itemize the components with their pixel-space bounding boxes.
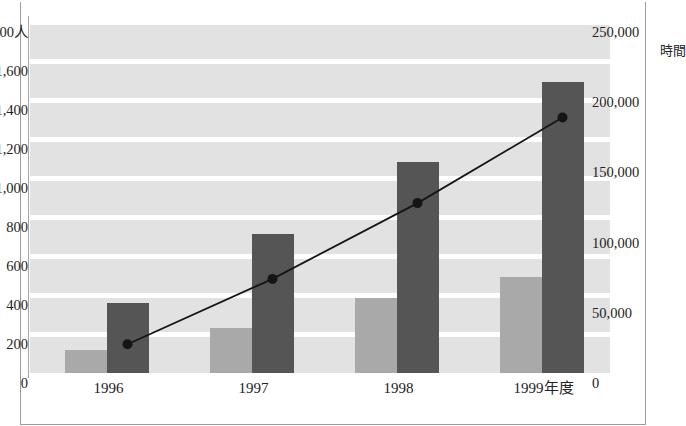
x-label-1998: 1998	[339, 381, 459, 396]
y-tick-left-800: 800	[0, 220, 28, 235]
frame-bottom-rule	[20, 424, 646, 425]
line-series-layer	[30, 22, 610, 373]
y-tick-right-250000: 250,000	[592, 25, 682, 40]
line-series-path	[128, 118, 563, 345]
y-tick-left-1600: 1,600	[0, 64, 28, 79]
line-marker-1999年度	[558, 113, 568, 123]
x-label-1999年度: 1999年度	[484, 381, 604, 396]
y-tick-left-200: 200	[0, 337, 28, 352]
line-marker-1997	[268, 274, 278, 284]
line-marker-1998	[413, 198, 423, 208]
y-tick-right-200000: 200,000	[592, 95, 682, 110]
y-tick-right-150000: 150,000	[592, 165, 682, 180]
y-tick-right-100000: 100,000	[592, 236, 682, 251]
plot-area	[30, 22, 610, 373]
y-axis-line	[28, 16, 29, 378]
frame-right-rule	[645, 2, 646, 424]
y-tick-left-400: 400	[0, 298, 28, 313]
y-tick-left-1800: 1,800人	[0, 25, 28, 40]
line-marker-1996	[123, 339, 133, 349]
y-tick-left-1000: 1,000	[0, 181, 28, 196]
x-label-1997: 1997	[194, 381, 314, 396]
y-tick-left-0: 0	[0, 376, 28, 391]
y-tick-left-1400: 1,400	[0, 103, 28, 118]
y-tick-right-50000: 50,000	[592, 306, 682, 321]
y-tick-left-600: 600	[0, 259, 28, 274]
y-tick-right-0: 0	[592, 376, 682, 391]
y-tick-left-1200: 1,200	[0, 142, 28, 157]
right-axis-unit-label: 時間	[660, 44, 686, 57]
x-label-1996: 1996	[49, 381, 169, 396]
